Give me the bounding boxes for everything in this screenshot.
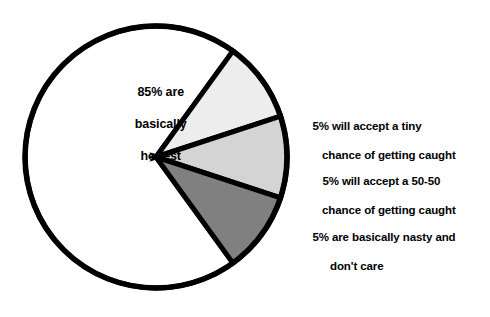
callout-nasty-line1: 5% are basically nasty and [312,231,455,243]
callout-nasty-line2: don't care [300,259,456,274]
slice-label-honest-line3: honest [141,149,181,163]
slice-label-honest: 85% are basically honest [88,68,220,180]
callout-fifty-line1: 5% will accept a 50-50 [322,175,440,187]
pie-chart: 85% are basically honest 5% will accept … [0,0,490,317]
slice-label-honest-line2: basically [135,117,187,131]
callout-tiny-line1: 5% will accept a tiny [312,120,421,132]
callout-label-nasty: 5% are basically nasty and don't care [300,215,456,302]
slice-label-honest-line1: 85% are [137,85,184,99]
